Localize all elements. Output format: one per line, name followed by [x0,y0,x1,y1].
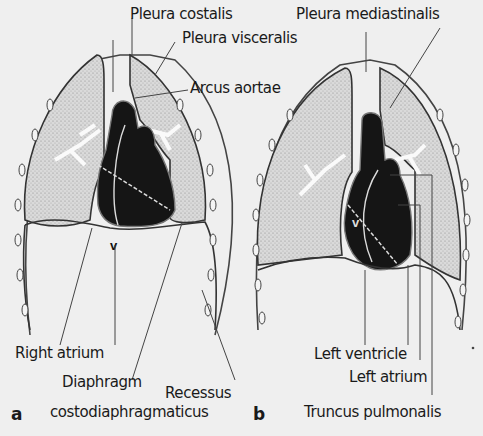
stray-dot [472,347,475,350]
label-costodiaphragmaticus: costodiaphragmaticus [50,405,209,420]
label-pleura-mediastinalis: Pleura mediastinalis [296,7,440,22]
label-truncus-pulmonalis: Truncus pulmonalis [304,405,441,420]
label-pleura-costalis: Pleura costalis [130,7,233,22]
label-diaphragm: Diaphragm [62,375,142,390]
panel-a-thorax: v [15,18,235,380]
label-right-atrium: Right atrium [15,346,104,361]
thorax-diagram: v [0,0,483,436]
panel-b-heart-marker: v [352,215,360,230]
panel-b-diaphragm [258,257,460,330]
label-arcus-aortae: Arcus aortae [190,81,280,96]
label-recessus: Recessus [165,386,231,401]
panel-b-thorax: v [253,28,474,395]
panel-a-heart-marker: v [110,238,118,253]
label-left-ventricle: Left ventricle [314,347,407,362]
label-left-atrium: Left atrium [349,370,427,385]
panel-a-diaphragm [25,220,216,330]
panel-label-a: a [11,406,22,423]
label-pleura-visceralis: Pleura visceralis [182,31,297,46]
panel-label-b: b [253,406,265,423]
